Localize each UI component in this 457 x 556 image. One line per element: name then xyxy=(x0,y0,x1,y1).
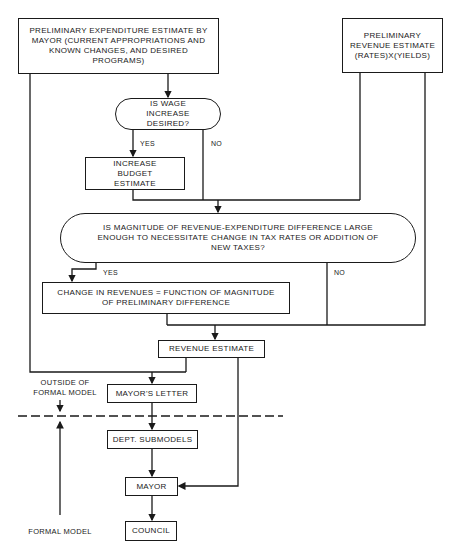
label-wage-no: NO xyxy=(211,139,222,148)
node-revenue-estimate: REVENUE ESTIMATE xyxy=(158,340,265,358)
node-increase-budget-estimate: INCREASE BUDGET ESTIMATE xyxy=(85,157,185,190)
decision-revenue-expenditure-magnitude: IS MAGNITUDE OF REVENUE-EXPENDITURE DIFF… xyxy=(60,213,416,263)
connector-lines xyxy=(0,0,457,556)
region-label-outside-formal-model: OUTSIDE OF FORMAL MODEL xyxy=(30,378,100,398)
node-mayor: MAYOR xyxy=(125,477,178,496)
decision-wage-increase: IS WAGE INCREASE DESIRED? xyxy=(115,98,221,130)
node-expenditure-estimate: PRELIMINARY EXPENDITURE ESTIMATE BY MAYO… xyxy=(18,18,219,74)
node-council: COUNCIL xyxy=(125,521,177,541)
label-magnitude-yes: YES xyxy=(103,268,118,277)
node-mayors-letter: MAYOR'S LETTER xyxy=(107,384,197,403)
label-wage-yes: YES xyxy=(140,139,155,148)
label-magnitude-no: NO xyxy=(334,268,345,277)
node-dept-submodels: DEPT. SUBMODELS xyxy=(107,430,198,449)
node-change-in-revenues: CHANGE IN REVENUES = FUNCTION OF MAGNITU… xyxy=(42,282,290,314)
node-preliminary-revenue-estimate: PRELIMINARY REVENUE ESTIMATE (RATES)X(YI… xyxy=(342,18,443,73)
region-label-formal-model: FORMAL MODEL xyxy=(20,527,100,537)
